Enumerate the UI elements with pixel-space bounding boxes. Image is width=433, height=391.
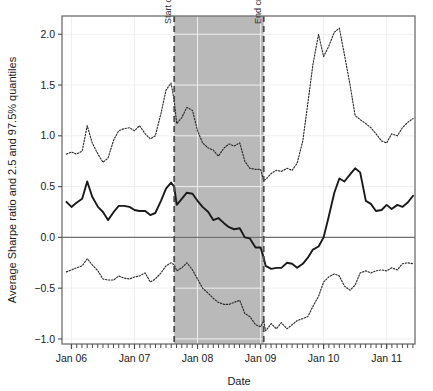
x-tick-label-2: Jan 08	[182, 352, 214, 364]
y-tick-label-4: 1.0	[40, 129, 55, 141]
crisis-shaded-region	[174, 16, 264, 344]
x-tick-label-1: Jan 07	[119, 352, 151, 364]
sharpe-ratio-chart: −1.0−0.50.00.51.01.52.0 Jan 06Jan 07Jan …	[0, 0, 433, 391]
y-tick-label-6: 2.0	[40, 28, 55, 40]
x-tick-label-3: Jan 09	[245, 352, 277, 364]
y-tick-label-0: −1.0	[34, 333, 55, 345]
y-tick-label-5: 1.5	[40, 79, 55, 91]
annotation-label-0: Start crisis	[163, 0, 173, 24]
x-tick-label-5: Jan 11	[371, 352, 402, 364]
x-axis-title: Date	[227, 375, 250, 387]
x-tick-label-4: Jan 10	[308, 352, 340, 364]
y-axis-title: Average Sharpe ratio and 2.5 and 97.5% q…	[6, 56, 18, 303]
chart-figure: −1.0−0.50.00.51.01.52.0 Jan 06Jan 07Jan …	[0, 0, 433, 391]
y-tick-label-1: −0.5	[34, 282, 55, 294]
y-tick-label-2: 0.0	[40, 231, 55, 243]
annotation-label-1: End crisis	[253, 0, 263, 24]
y-tick-label-3: 0.5	[40, 180, 55, 192]
x-tick-label-0: Jan 06	[56, 352, 88, 364]
